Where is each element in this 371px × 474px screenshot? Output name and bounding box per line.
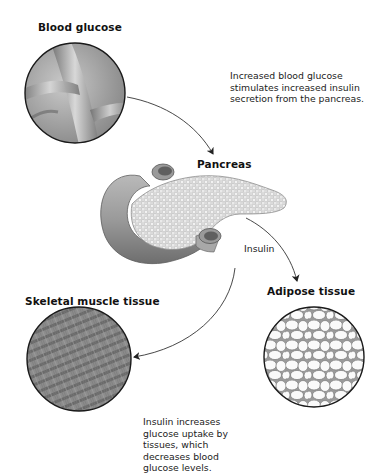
adipose-tissue-label: Adipose tissue bbox=[267, 285, 355, 297]
muscle-fibers-illustration bbox=[25, 305, 135, 415]
blood-glucose-label: Blood glucose bbox=[38, 21, 122, 33]
bottom-note: Insulin increases glucose uptake by tiss… bbox=[143, 416, 255, 474]
blood-vessel-illustration bbox=[20, 40, 130, 150]
arrow-pancreas-to-muscle bbox=[134, 268, 235, 357]
top-note: Increased blood glucose stimulates incre… bbox=[230, 70, 365, 105]
skeletal-muscle-label: Skeletal muscle tissue bbox=[25, 295, 160, 307]
adipose-cells-illustration bbox=[262, 305, 366, 409]
pancreas-label: Pancreas bbox=[197, 158, 252, 170]
arrow-blood-to-pancreas bbox=[127, 97, 213, 154]
insulin-label: Insulin bbox=[244, 243, 274, 255]
